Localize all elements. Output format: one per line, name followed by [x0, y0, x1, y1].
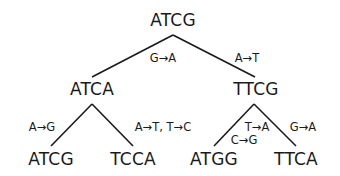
edge-label-root-right: A→T [235, 52, 260, 64]
node-atgg-leaf: ATGG [190, 150, 238, 168]
node-ttca-leaf: TTCA [274, 150, 318, 168]
edge-atca-to-tcca [92, 104, 133, 146]
node-root: ATCG [150, 11, 196, 29]
node-atca: ATCA [70, 80, 114, 98]
node-ttcg: TTCG [233, 80, 278, 98]
edge-label-root-left: G→A [150, 52, 176, 64]
edge-atca-to-atcg [51, 104, 92, 146]
edge-label-ttcg-left-line2: C→G [231, 134, 258, 146]
node-tcca-leaf: TCCA [110, 150, 156, 168]
edge-label-ttcg-right: G→A [290, 121, 316, 133]
edge-label-atca-left: A→G [29, 121, 55, 133]
edge-label-ttcg-left-line1: T→A [245, 121, 270, 133]
node-atcg-leaf: ATCG [28, 150, 74, 168]
edge-label-atca-right: A→T, T→C [135, 121, 192, 133]
